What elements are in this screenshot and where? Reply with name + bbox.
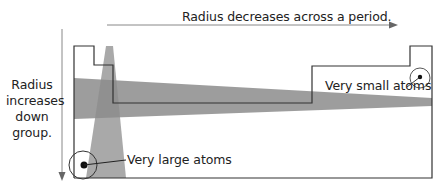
across-period-label: Radius decreases across a period. xyxy=(182,9,391,24)
down-group-label: Radius increases down group. xyxy=(6,77,58,141)
small-atoms-label: Very small atoms xyxy=(325,78,431,93)
atomic-radius-diagram: Radius decreases across a period. Radius… xyxy=(0,0,441,188)
large-atoms-label: Very large atoms xyxy=(127,152,232,167)
